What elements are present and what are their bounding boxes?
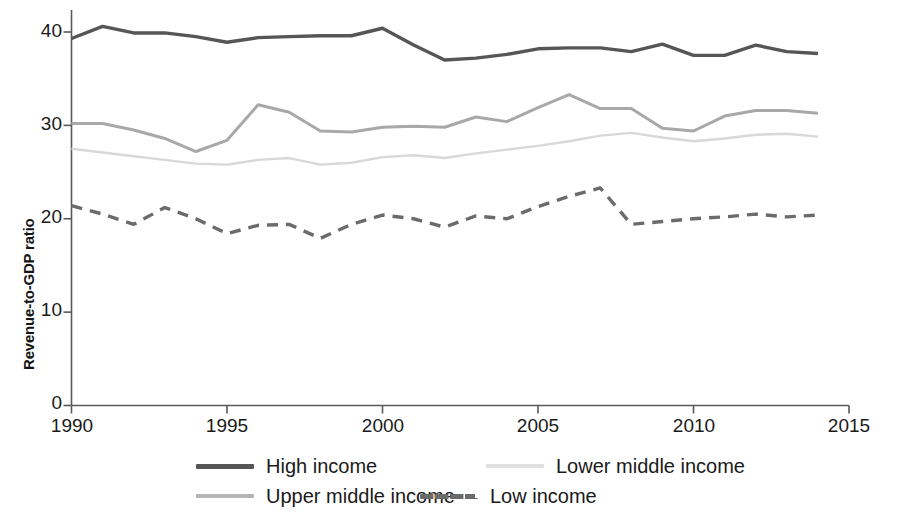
series-line-low-income [72, 188, 818, 238]
legend-label-lower-middle-income: Lower middle income [556, 456, 745, 476]
data-series-group [72, 26, 818, 238]
legend-swatch-low-income [420, 487, 478, 505]
revenue-to-gdp-line-chart: Revenue-to-GDP ratio 40 30 20 10 0 1990 … [0, 0, 897, 515]
legend-label-high-income: High income [266, 456, 377, 476]
legend-swatch-lower-middle-income [486, 457, 544, 475]
series-line-lower-middle-income [72, 133, 818, 165]
legend-entry-upper-middle-income: Upper middle income [196, 482, 455, 510]
y-axis-ticks [64, 32, 72, 406]
chart-legend: High income Upper middle income Lower mi… [196, 452, 886, 514]
series-line-high-income [72, 26, 818, 60]
plot-area [0, 0, 897, 515]
legend-label-low-income: Low income [490, 486, 597, 506]
x-axis-ticks [72, 406, 850, 414]
legend-entry-lower-middle-income: Lower middle income [486, 452, 745, 480]
legend-swatch-upper-middle-income [196, 487, 254, 505]
series-line-upper-middle-income [72, 95, 818, 152]
legend-swatch-high-income [196, 457, 254, 475]
legend-entry-low-income: Low income [420, 482, 597, 510]
legend-entry-high-income: High income [196, 452, 377, 480]
